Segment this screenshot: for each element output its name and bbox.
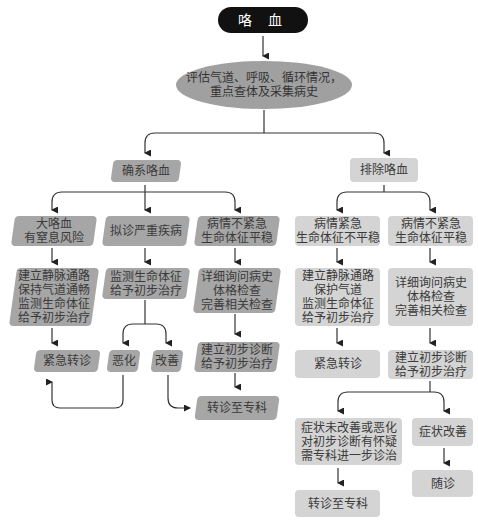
right-emergency-referral-node: 紧急转诊 <box>295 350 380 378</box>
right-history-exam-node: 详细询问病史 体格检查 完善相关检查 <box>388 268 473 326</box>
assessment-node: 评估气道、呼吸、循环情况， 重点查体及采集病史 <box>176 61 352 109</box>
monitor-vitals-node: 监测生命体征 给予初步治疗 <box>102 268 190 299</box>
initial-diagnosis-node: 建立初步诊断 给予初步治疗 <box>194 342 280 372</box>
worsened-node: 恶化 <box>106 350 140 372</box>
excluded-label: 排除咯血 <box>360 163 408 177</box>
title-label: 咯 血 <box>238 13 288 27</box>
assessment-label: 评估气道、呼吸、循环情况， 重点查体及采集病史 <box>186 71 342 99</box>
symptoms-improved-node: 症状改善 <box>412 418 473 446</box>
not-improved-node: 症状未改善或恶化 对初步诊断有怀疑 需专科进一步诊治 <box>295 418 402 465</box>
suspected-severe-disease-node: 拟诊严重疾病 <box>102 216 190 246</box>
right-specialist-referral-node: 转诊至专科 <box>295 490 380 517</box>
excluded-hemoptysis-node: 排除咯血 <box>350 158 418 182</box>
right-initial-diagnosis-node: 建立初步诊断 给予初步治疗 <box>388 350 473 379</box>
massive-hemoptysis-node: 大咯血 有窒息风险 <box>11 216 97 246</box>
title-node: 咯 血 <box>218 7 308 33</box>
improved-node: 改善 <box>150 350 183 372</box>
emergency-referral-node: 紧急转诊 <box>33 350 100 372</box>
follow-up-node: 随诊 <box>412 470 473 497</box>
history-exam-node: 详细询问病史 体格检查 完善相关检查 <box>193 268 281 313</box>
iv-access-airway-node: 建立静脉通路 保持气道通畅 监测生命体征 给予初步治疗 <box>9 268 99 326</box>
non-urgent-stable-node: 病情不紧急 生命体征平稳 <box>194 216 280 246</box>
right-non-urgent-stable-node: 病情不紧急 生命体征平稳 <box>388 216 473 246</box>
urgent-unstable-node: 病情紧急 生命体征不平稳 <box>295 216 380 246</box>
confirmed-hemoptysis-node: 确系咯血 <box>110 160 181 182</box>
specialist-referral-node: 转诊至专科 <box>194 396 279 420</box>
iv-access-protect-airway-node: 建立静脉通路 保护气道 监测生命体征 给予初步治疗 <box>295 268 380 326</box>
confirmed-label: 确系咯血 <box>122 164 170 178</box>
